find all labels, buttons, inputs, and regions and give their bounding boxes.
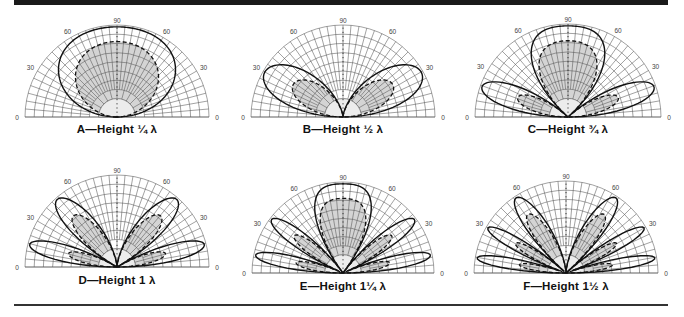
angle-label-180: 0 bbox=[241, 114, 245, 121]
angle-label-60: 60 bbox=[163, 28, 171, 35]
angle-label-0: 0 bbox=[441, 114, 445, 121]
angle-label-180: 0 bbox=[15, 264, 19, 271]
panel-e: 030609060300E—Height 1¼ λ bbox=[238, 168, 448, 308]
angle-label-0: 0 bbox=[215, 264, 219, 271]
angle-label-180: 0 bbox=[465, 114, 469, 121]
angle-label-30: 30 bbox=[426, 64, 434, 71]
angle-label-120: 60 bbox=[290, 28, 298, 35]
angle-label-0: 0 bbox=[440, 270, 444, 277]
panel-f: 030609060300F—Height 1½ λ bbox=[461, 168, 671, 308]
angle-label-120: 60 bbox=[513, 184, 521, 191]
polar-plot: 030609060300 bbox=[238, 168, 448, 288]
angle-label-90: 90 bbox=[113, 17, 121, 24]
angle-label-120: 60 bbox=[514, 27, 522, 34]
angle-label-120: 60 bbox=[64, 178, 72, 185]
angle-label-30: 30 bbox=[200, 214, 208, 221]
top-rule bbox=[14, 0, 668, 5]
angle-label-120: 60 bbox=[64, 28, 72, 35]
angle-label-60: 60 bbox=[388, 185, 396, 192]
angle-label-60: 60 bbox=[163, 178, 171, 185]
panel-caption: D—Height 1 λ bbox=[12, 274, 222, 286]
angle-label-150: 30 bbox=[27, 214, 35, 221]
angle-label-180: 0 bbox=[242, 270, 246, 277]
angle-label-90: 90 bbox=[339, 174, 347, 181]
panel-d: 030609060300D—Height 1 λ bbox=[12, 162, 222, 302]
angle-label-150: 30 bbox=[27, 64, 35, 71]
polar-plot: 030609060300 bbox=[12, 162, 222, 282]
polar-plot: 030609060300 bbox=[463, 12, 673, 132]
panel-b: 030609060300B—Height ½ λ bbox=[238, 12, 448, 152]
angle-label-0: 0 bbox=[667, 114, 671, 121]
panel-caption: E—Height 1¼ λ bbox=[238, 280, 448, 292]
angle-label-90: 90 bbox=[564, 16, 572, 23]
panel-caption: F—Height 1½ λ bbox=[461, 280, 671, 292]
angle-label-60: 60 bbox=[389, 28, 397, 35]
polar-plot: 030609060300 bbox=[12, 12, 222, 132]
angle-label-90: 90 bbox=[562, 173, 570, 180]
angle-label-0: 0 bbox=[215, 114, 219, 121]
panel-c: 030609060300C—Height ¾ λ bbox=[463, 12, 673, 152]
angle-label-30: 30 bbox=[200, 64, 208, 71]
angle-label-30: 30 bbox=[652, 63, 660, 70]
panel-caption: C—Height ¾ λ bbox=[463, 123, 673, 135]
angle-label-30: 30 bbox=[649, 220, 657, 227]
panel-a: 030609060300A—Height ¼ λ bbox=[12, 12, 222, 152]
angle-label-150: 30 bbox=[476, 220, 484, 227]
bottom-rule bbox=[14, 304, 668, 306]
angle-label-180: 0 bbox=[464, 270, 468, 277]
angle-label-90: 90 bbox=[339, 17, 347, 24]
angle-label-30: 30 bbox=[425, 220, 433, 227]
angle-label-150: 30 bbox=[254, 220, 262, 227]
polar-plot: 030609060300 bbox=[461, 168, 671, 288]
panel-caption: A—Height ¼ λ bbox=[12, 123, 222, 135]
angle-label-90: 90 bbox=[113, 167, 121, 174]
polar-plot: 030609060300 bbox=[238, 12, 448, 132]
angle-label-150: 30 bbox=[253, 64, 261, 71]
angle-label-60: 60 bbox=[612, 184, 620, 191]
angle-label-60: 60 bbox=[614, 27, 622, 34]
angle-label-180: 0 bbox=[15, 114, 19, 121]
panel-caption: B—Height ½ λ bbox=[238, 123, 448, 135]
angle-label-150: 30 bbox=[477, 63, 485, 70]
angle-label-120: 60 bbox=[290, 185, 298, 192]
angle-label-0: 0 bbox=[664, 270, 668, 277]
